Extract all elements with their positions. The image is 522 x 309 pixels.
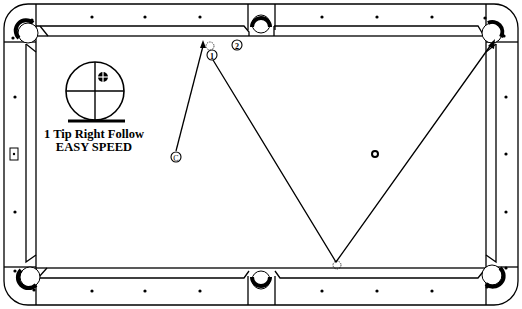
pocket-bottom-right [482, 265, 508, 289]
table-spot [372, 151, 378, 157]
pocket-bottom-middle [252, 271, 270, 289]
arrow-icon [200, 40, 206, 48]
pocket-top-middle [252, 15, 270, 33]
cue-ball-path [176, 46, 203, 151]
ball-cue: C [171, 152, 181, 163]
billiards-diagram: C 1 2 1 Tip Right Follow EASY SPEED [0, 0, 522, 309]
ball-2: 2 [232, 40, 242, 51]
ghost-ball [206, 42, 214, 50]
tip-contact-point-icon [98, 72, 108, 82]
object-ball-path [213, 42, 493, 262]
speed-label: EASY SPEED [34, 140, 154, 155]
ball-1: 1 [207, 50, 217, 61]
svg-text:2: 2 [235, 42, 239, 51]
pocket-top-left [11, 18, 38, 43]
svg-text:1: 1 [210, 52, 214, 61]
svg-text:C: C [173, 154, 178, 163]
cue-tip-diagram [66, 62, 125, 121]
shot-paths [176, 42, 493, 262]
